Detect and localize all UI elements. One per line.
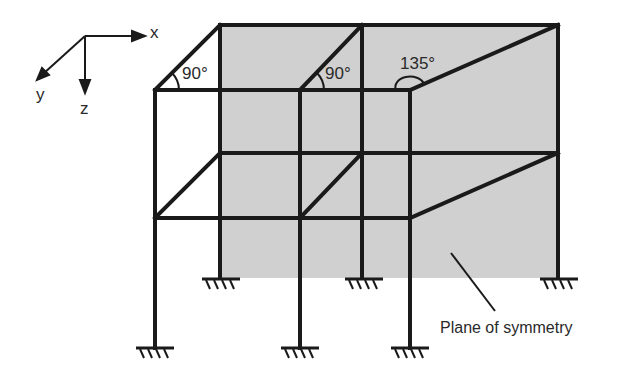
support-front-left	[136, 348, 174, 358]
z-axis-label: z	[80, 100, 89, 117]
angle-label-middle: 90°	[325, 65, 351, 82]
support-back-middle	[345, 279, 383, 289]
coordinate-axes	[37, 31, 145, 93]
x-axis-label: x	[150, 24, 159, 41]
support-front-right	[391, 348, 429, 358]
y-axis-label: y	[36, 86, 45, 103]
plane-of-symmetry-label: Plane of symmetry	[440, 320, 572, 336]
support-back-left	[202, 279, 240, 289]
angle-label-right: 135°	[400, 55, 435, 72]
support-front-middle	[281, 348, 319, 358]
support-back-right	[540, 279, 578, 289]
angle-label-left: 90°	[182, 65, 208, 82]
